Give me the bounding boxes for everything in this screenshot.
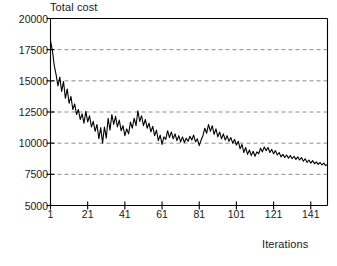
plot-frame bbox=[51, 19, 328, 206]
plot-area bbox=[0, 0, 337, 266]
cost-curve bbox=[51, 41, 328, 166]
chart-container: Total cost Iterations 200001750015000125… bbox=[0, 0, 337, 266]
